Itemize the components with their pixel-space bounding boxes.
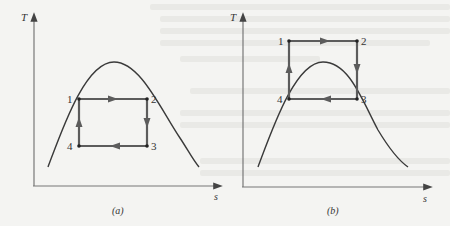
point-label-3: 3 [361, 93, 367, 105]
saturation-dome [258, 62, 408, 167]
point-label-2: 2 [361, 35, 367, 47]
caption-b: (b) [327, 205, 339, 217]
state-points [77, 97, 149, 148]
arrow-up-icon [286, 63, 293, 73]
point-label-2: 2 [151, 93, 157, 105]
flow-arrow-icons [286, 38, 361, 103]
arrow-left-icon [110, 143, 120, 150]
ts-diagrams: T s 1 2 3 4 (a) T s [0, 0, 450, 226]
flow-arrow-icons [76, 96, 151, 150]
cycle-rectangle [289, 41, 357, 99]
point-label-1: 1 [67, 93, 73, 105]
arrow-right-icon [108, 96, 118, 103]
arrow-up-icon [76, 117, 83, 127]
point-label-3: 3 [151, 140, 157, 152]
x-axis-label: s [423, 193, 427, 204]
caption-a: (a) [112, 205, 124, 217]
x-axis-label: s [214, 191, 218, 202]
point-label-4: 4 [277, 93, 283, 105]
point-label-1: 1 [278, 35, 284, 47]
state-points [287, 39, 359, 101]
figure-b: T s 1 2 3 4 (b) [230, 11, 428, 217]
figure-a: T s 1 2 3 4 (a) [21, 11, 218, 217]
y-axis-label: T [230, 11, 237, 23]
arrow-left-icon [321, 96, 331, 103]
arrow-down-icon [144, 118, 151, 128]
y-axis-label: T [21, 11, 28, 23]
point-label-4: 4 [67, 140, 73, 152]
cycle-rectangle [79, 99, 147, 146]
arrow-right-icon [320, 38, 330, 45]
arrow-down-icon [354, 64, 361, 74]
